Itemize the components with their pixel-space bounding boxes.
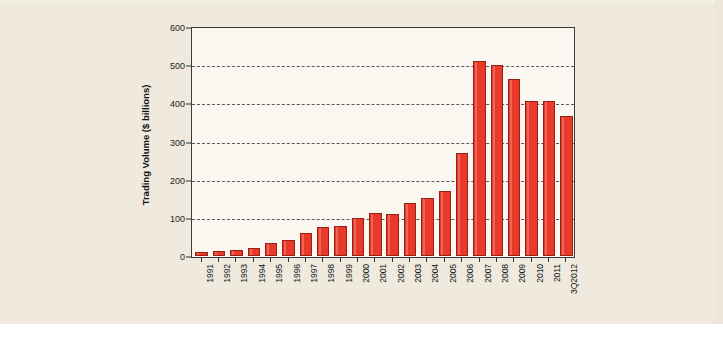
x-tick-label-1993: 1993: [239, 264, 249, 283]
y-tick-label-100: 100: [151, 214, 185, 224]
bar-2000: [352, 218, 365, 256]
x-tick-label-2006: 2006: [465, 264, 475, 283]
x-tick-mark-2007: [479, 258, 480, 262]
bar-1992: [213, 251, 226, 256]
x-tick-label-1991: 1991: [205, 264, 215, 283]
x-tick-mark-1997: [305, 258, 306, 262]
x-tick-mark-1995: [270, 258, 271, 262]
bar-1994: [248, 248, 261, 256]
bar-2002: [386, 214, 399, 256]
y-tick-label-500: 500: [151, 61, 185, 71]
y-axis-title: Trading Volume ($ billions): [138, 30, 152, 260]
x-tick-mark-1993: [235, 258, 236, 262]
bar-2008: [491, 65, 504, 256]
x-tick-label-2002: 2002: [396, 264, 406, 283]
x-tick-label-3Q2012: 3Q2012: [569, 264, 579, 294]
x-tick-mark-2005: [444, 258, 445, 262]
bar-series: [193, 29, 573, 256]
x-tick-mark-2000: [357, 258, 358, 262]
x-tick-mark-1998: [322, 258, 323, 262]
bar-2004: [421, 198, 434, 256]
x-tick-label-2001: 2001: [378, 264, 388, 283]
x-tick-mark-2009: [513, 258, 514, 262]
y-tick-label-300: 300: [151, 138, 185, 148]
bar-chart: Trading Volume ($ billions) 010020030040…: [0, 0, 723, 324]
x-tick-label-1997: 1997: [309, 264, 319, 283]
x-tick-mark-2008: [496, 258, 497, 262]
x-tick-mark-2003: [409, 258, 410, 262]
bar-2010: [525, 101, 538, 256]
bar-1997: [300, 233, 313, 256]
bar-1995: [265, 243, 278, 256]
y-tick-label-0: 0: [151, 252, 185, 262]
bar-1999: [334, 226, 347, 256]
x-tick-label-2010: 2010: [535, 264, 545, 283]
y-axis-title-label: Trading Volume ($ billions): [140, 85, 151, 206]
x-tick-mark-2002: [392, 258, 393, 262]
y-tick-label-600: 600: [151, 23, 185, 33]
bar-2001: [369, 213, 382, 256]
chart-page: Trading Volume ($ billions) 010020030040…: [0, 0, 723, 344]
bar-1996: [282, 240, 295, 256]
y-tick-label-200: 200: [151, 176, 185, 186]
x-tick-label-2005: 2005: [448, 264, 458, 283]
x-tick-mark-1991: [201, 258, 202, 262]
x-tick-label-2007: 2007: [483, 264, 493, 283]
x-tick-label-1999: 1999: [344, 264, 354, 283]
bar-1993: [230, 250, 243, 256]
x-tick-mark-1994: [253, 258, 254, 262]
x-tick-label-1996: 1996: [292, 264, 302, 283]
x-tick-mark-3Q2012: [565, 258, 566, 262]
x-tick-mark-2001: [374, 258, 375, 262]
x-tick-label-2003: 2003: [413, 264, 423, 283]
x-tick-mark-1999: [340, 258, 341, 262]
bar-2007: [473, 61, 486, 256]
x-tick-label-1998: 1998: [326, 264, 336, 283]
x-tick-mark-1992: [218, 258, 219, 262]
bar-1998: [317, 227, 330, 256]
x-tick-mark-2010: [531, 258, 532, 262]
y-tick-label-400: 400: [151, 99, 185, 109]
footer-strip: [0, 324, 723, 344]
bar-1991: [195, 252, 208, 256]
x-tick-label-1994: 1994: [257, 264, 267, 283]
x-tick-mark-1996: [288, 258, 289, 262]
bar-2005: [439, 191, 452, 256]
x-tick-label-2009: 2009: [517, 264, 527, 283]
x-tick-label-1995: 1995: [274, 264, 284, 283]
x-tick-mark-2004: [426, 258, 427, 262]
bar-2003: [404, 203, 417, 256]
x-tick-label-2008: 2008: [500, 264, 510, 283]
x-tick-label-2004: 2004: [430, 264, 440, 283]
bar-3Q2012: [560, 116, 573, 256]
x-tick-mark-2006: [461, 258, 462, 262]
x-tick-label-1992: 1992: [222, 264, 232, 283]
x-tick-label-2000: 2000: [361, 264, 371, 283]
x-tick-mark-2011: [548, 258, 549, 262]
x-tick-label-2011: 2011: [552, 264, 562, 282]
bar-2011: [543, 101, 556, 256]
plot-area: [191, 27, 575, 258]
bar-2009: [508, 79, 521, 256]
bar-2006: [456, 153, 469, 256]
